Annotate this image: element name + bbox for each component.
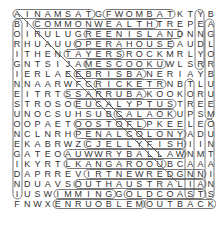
grid-letter[interactable]: W xyxy=(63,79,73,89)
grid-letter[interactable]: R xyxy=(53,139,63,149)
grid-letter[interactable]: E xyxy=(94,39,104,49)
grid-letter[interactable]: I xyxy=(12,49,22,59)
grid-letter[interactable]: L xyxy=(124,19,134,29)
grid-letter[interactable]: T xyxy=(53,89,63,99)
grid-letter[interactable]: N xyxy=(114,29,124,39)
grid-letter[interactable]: R xyxy=(43,89,53,99)
grid-letter[interactable]: S xyxy=(114,49,124,59)
grid-letter[interactable]: B xyxy=(124,69,134,79)
grid-letter[interactable]: O xyxy=(12,29,22,39)
grid-letter[interactable]: A xyxy=(165,179,175,189)
grid-letter[interactable]: O xyxy=(206,119,216,129)
grid-letter[interactable]: A xyxy=(104,99,114,109)
grid-letter[interactable]: N xyxy=(185,149,195,159)
grid-letter[interactable]: S xyxy=(155,39,165,49)
grid-letter[interactable]: R xyxy=(53,129,63,139)
grid-letter[interactable]: Y xyxy=(195,69,205,79)
grid-letter[interactable]: L xyxy=(53,29,63,39)
grid-letter[interactable]: N xyxy=(53,49,63,59)
grid-letter[interactable]: Y xyxy=(32,159,42,169)
grid-letter[interactable]: E xyxy=(104,139,114,149)
grid-letter[interactable]: E xyxy=(12,89,22,99)
grid-letter[interactable]: S xyxy=(185,59,195,69)
grid-letter[interactable]: E xyxy=(165,39,175,49)
grid-letter[interactable]: A xyxy=(43,39,53,49)
grid-letter[interactable]: I xyxy=(104,69,114,79)
grid-letter[interactable]: Y xyxy=(134,139,144,149)
grid-letter[interactable]: U xyxy=(53,39,63,49)
grid-letter[interactable]: O xyxy=(73,19,83,29)
grid-letter[interactable]: H xyxy=(104,179,114,189)
grid-letter[interactable]: R xyxy=(155,179,165,189)
grid-letter[interactable]: T xyxy=(206,149,216,159)
grid-letter[interactable]: C xyxy=(175,159,185,169)
grid-letter[interactable]: I xyxy=(185,139,195,149)
grid-letter[interactable]: T xyxy=(104,169,114,179)
grid-letter[interactable]: T xyxy=(32,89,42,99)
grid-letter[interactable]: R xyxy=(32,99,42,109)
grid-letter[interactable]: O xyxy=(73,119,83,129)
grid-letter[interactable]: L xyxy=(134,189,144,199)
grid-letter[interactable]: R xyxy=(32,29,42,39)
grid-letter[interactable]: L xyxy=(175,59,185,69)
grid-letter[interactable]: I xyxy=(195,139,205,149)
grid-letter[interactable]: N xyxy=(206,179,216,189)
grid-letter[interactable]: W xyxy=(94,149,104,159)
grid-letter[interactable]: L xyxy=(144,29,154,39)
grid-letter[interactable]: T xyxy=(63,49,73,59)
grid-letter[interactable]: R xyxy=(124,49,134,59)
grid-letter[interactable]: L xyxy=(114,129,124,139)
grid-letter[interactable]: N xyxy=(94,159,104,169)
grid-letter[interactable]: W xyxy=(114,9,124,19)
grid-letter[interactable]: D xyxy=(12,169,22,179)
grid-letter[interactable]: R xyxy=(94,89,104,99)
grid-letter[interactable]: R xyxy=(124,159,134,169)
grid-letter[interactable]: A xyxy=(53,69,63,79)
grid-letter[interactable]: A xyxy=(73,59,83,69)
grid-letter[interactable]: I xyxy=(53,189,63,199)
grid-letter[interactable]: M xyxy=(165,49,175,59)
grid-letter[interactable]: B xyxy=(144,9,154,19)
grid-letter[interactable]: C xyxy=(114,59,124,69)
grid-letter[interactable]: M xyxy=(83,59,93,69)
grid-letter[interactable]: M xyxy=(63,19,73,29)
grid-letter[interactable]: D xyxy=(195,39,205,49)
grid-letter[interactable]: M xyxy=(134,9,144,19)
grid-letter[interactable]: G xyxy=(73,29,83,39)
grid-letter[interactable]: B xyxy=(175,199,185,209)
grid-letter[interactable]: H xyxy=(175,139,185,149)
grid-letter[interactable]: I xyxy=(124,29,134,39)
grid-letter[interactable]: U xyxy=(83,99,93,109)
grid-letter[interactable]: A xyxy=(195,179,205,189)
grid-letter[interactable]: L xyxy=(206,39,216,49)
grid-letter[interactable]: S xyxy=(165,99,175,109)
grid-letter[interactable]: E xyxy=(195,119,205,129)
grid-letter[interactable]: O xyxy=(144,159,154,169)
grid-letter[interactable]: C xyxy=(22,129,32,139)
grid-letter[interactable]: I xyxy=(83,189,93,199)
grid-letter[interactable]: W xyxy=(83,149,93,159)
grid-letter[interactable]: U xyxy=(12,109,22,119)
grid-letter[interactable]: K xyxy=(206,199,216,209)
grid-letter[interactable]: N xyxy=(195,29,205,39)
grid-letter[interactable]: U xyxy=(175,109,185,119)
grid-letter[interactable]: O xyxy=(43,19,53,29)
grid-letter[interactable]: O xyxy=(83,119,93,129)
grid-letter[interactable]: U xyxy=(114,89,124,99)
grid-letter[interactable]: H xyxy=(73,109,83,119)
grid-letter[interactable]: A xyxy=(114,39,124,49)
grid-letter[interactable]: N xyxy=(12,179,22,189)
grid-letter[interactable]: E xyxy=(195,99,205,109)
grid-letter[interactable]: I xyxy=(104,79,114,89)
grid-letter[interactable]: R xyxy=(32,69,42,79)
grid-letter[interactable]: U xyxy=(155,59,165,69)
grid-letter[interactable]: R xyxy=(12,39,22,49)
grid-letter[interactable]: A xyxy=(114,19,124,29)
grid-letter[interactable]: C xyxy=(155,189,165,199)
grid-letter[interactable]: W xyxy=(134,169,144,179)
grid-letter[interactable]: R xyxy=(185,99,195,109)
grid-letter[interactable]: C xyxy=(83,139,93,149)
grid-letter[interactable]: U xyxy=(73,149,83,159)
grid-letter[interactable]: R xyxy=(165,19,175,29)
grid-letter[interactable]: O xyxy=(22,119,32,129)
